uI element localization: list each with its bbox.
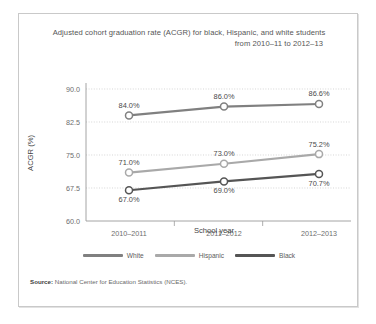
chart-legend: WhiteHispanicBlack xyxy=(19,252,359,259)
legend-swatch-icon xyxy=(235,254,275,256)
y-tick-label: 82.5 xyxy=(66,118,80,127)
legend-label: White xyxy=(127,252,144,259)
legend-swatch-icon xyxy=(155,254,195,256)
data-point-marker xyxy=(126,169,133,176)
data-point-marker xyxy=(221,103,228,110)
data-label: 67.0% xyxy=(119,195,140,204)
data-point-marker xyxy=(221,178,228,185)
source-note: Source: National Center for Education St… xyxy=(30,278,187,285)
data-point-marker xyxy=(126,112,133,119)
y-tick-label: 90.0 xyxy=(66,85,80,94)
y-axis-title: ACGR (%) xyxy=(26,135,35,171)
data-label: 75.2% xyxy=(309,140,330,149)
data-point-marker xyxy=(221,160,228,167)
data-point-marker xyxy=(316,100,323,107)
legend-item-white[interactable]: White xyxy=(83,252,144,259)
data-point-marker xyxy=(316,170,323,177)
data-point-marker xyxy=(316,151,323,158)
chart-title-line-2: from 2010–11 to 2012–13 xyxy=(39,38,339,49)
x-tick-label: 2012–2013 xyxy=(301,229,337,236)
y-tick-label: 67.5 xyxy=(66,184,80,193)
legend-label: Black xyxy=(279,252,295,259)
series-lines xyxy=(126,100,323,193)
data-label: 71.0% xyxy=(119,158,140,167)
data-label: 86.0% xyxy=(214,92,235,101)
line-chart-svg: 60.067.575.082.590.0 2010–20112011–20122… xyxy=(19,61,359,236)
plot-area: 60.067.575.082.590.0 2010–20112011–20122… xyxy=(19,61,359,236)
legend-label: Hispanic xyxy=(199,252,224,259)
legend-swatch-icon xyxy=(83,254,123,256)
source-text: National Center for Education Statistics… xyxy=(55,278,187,285)
chart-title: Adjusted cohort graduation rate (ACGR) f… xyxy=(39,27,339,49)
chart-title-line-1: Adjusted cohort graduation rate (ACGR) f… xyxy=(39,27,339,38)
legend-item-hispanic[interactable]: Hispanic xyxy=(155,252,224,259)
data-label: 70.7% xyxy=(309,179,330,188)
x-tick-label: 2010–2011 xyxy=(111,229,146,236)
legend-item-black[interactable]: Black xyxy=(235,252,295,259)
data-label: 73.0% xyxy=(214,149,235,158)
data-label: 86.6% xyxy=(309,89,330,98)
y-tick-label: 60.0 xyxy=(66,217,80,226)
x-axis-title: School year xyxy=(194,226,235,235)
data-point-marker xyxy=(126,187,133,194)
figure-card: Adjusted cohort graduation rate (ACGR) f… xyxy=(18,13,358,307)
y-tick-label: 75.0 xyxy=(66,151,80,160)
y-axis: 60.067.575.082.590.0 xyxy=(66,83,86,226)
data-label: 84.0% xyxy=(119,101,140,110)
source-label: Source: xyxy=(30,278,53,285)
data-label: 69.0% xyxy=(214,186,235,195)
